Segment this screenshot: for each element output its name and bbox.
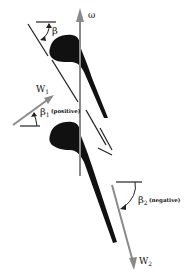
w2-label: W2 bbox=[139, 256, 152, 267]
upper-blade-chord-line bbox=[52, 60, 78, 102]
w2-arrow-line bbox=[112, 185, 133, 262]
beta1-label: β1 bbox=[40, 106, 50, 118]
omega-arrowhead-icon bbox=[76, 8, 84, 22]
beta-label: β bbox=[52, 25, 58, 36]
beta2-arc bbox=[123, 182, 136, 208]
upper-blade bbox=[49, 35, 108, 118]
w2-arrowhead-icon bbox=[129, 257, 137, 270]
beta1-arrowhead-icon bbox=[31, 112, 37, 117]
blade-diagram: ω β W1 β1 (positive) W2 β2 (negative) bbox=[0, 0, 189, 280]
beta2-label: β2 bbox=[138, 194, 148, 206]
beta-arrowhead2-icon bbox=[40, 36, 46, 41]
w1-arrowhead-icon bbox=[44, 95, 54, 104]
beta2-note: (negative) bbox=[149, 197, 181, 204]
lower-right-line bbox=[100, 128, 112, 150]
w1-label: W1 bbox=[36, 84, 49, 95]
lower-passage-line bbox=[98, 148, 112, 155]
beta1-note: (positive) bbox=[51, 108, 81, 115]
omega-label: ω bbox=[88, 10, 95, 20]
beta2-arrowhead-icon bbox=[120, 204, 126, 210]
